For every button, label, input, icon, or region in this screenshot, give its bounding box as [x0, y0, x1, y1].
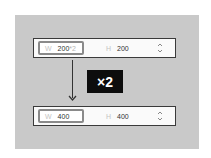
width-value: 400	[58, 113, 70, 120]
width-value: 200*2	[58, 45, 76, 52]
size-fields-before: W 200*2 H 200	[33, 38, 176, 58]
height-label: H	[106, 113, 111, 120]
width-input-after[interactable]: W 400	[38, 109, 84, 123]
size-fields-after: W 400 H 400	[33, 106, 176, 126]
height-input-after[interactable]: H 400	[101, 107, 129, 125]
width-input-before[interactable]: W 200*2	[38, 41, 84, 55]
up-down-chevron-icon[interactable]	[157, 42, 163, 54]
down-arrow-icon	[72, 60, 73, 98]
up-down-chevron-icon[interactable]	[157, 110, 163, 122]
height-input-before[interactable]: H 200	[101, 39, 129, 57]
width-label: W	[45, 113, 52, 120]
height-label: H	[106, 45, 111, 52]
arrow-head-icon	[68, 95, 77, 101]
height-value: 400	[117, 113, 129, 120]
height-value: 200	[117, 45, 129, 52]
multiplier-badge: ×2	[87, 70, 123, 93]
width-label: W	[45, 45, 52, 52]
